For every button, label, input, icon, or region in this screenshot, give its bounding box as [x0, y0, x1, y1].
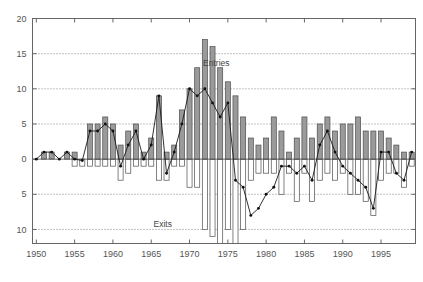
- exits-bar: [348, 159, 353, 194]
- entries-bar: [256, 145, 261, 159]
- exits-bar: [333, 159, 338, 180]
- x-tick-label: 1995: [371, 249, 391, 259]
- entries-bar: [248, 138, 253, 159]
- x-tick-label: 1950: [26, 249, 46, 259]
- exits-bar: [317, 159, 322, 180]
- y-tick-label: 15: [16, 49, 26, 59]
- net-data-point: [150, 144, 153, 147]
- y-tick-label: 10: [16, 84, 26, 94]
- net-data-point: [249, 214, 252, 217]
- net-data-point: [257, 207, 260, 210]
- chart-plot-area: 20151050510 1950195519601965197019751980…: [0, 0, 423, 282]
- entries-bar: [401, 152, 406, 159]
- exits-bar: [133, 159, 138, 166]
- exits-bar: [103, 159, 108, 166]
- x-tick-label: 1965: [141, 249, 161, 259]
- entries-bar: [195, 68, 200, 159]
- series-label-exits: Exits: [154, 219, 172, 229]
- net-data-point: [349, 172, 352, 175]
- exits-bar: [386, 159, 391, 173]
- entries-bar: [302, 117, 307, 159]
- exits-bar: [356, 159, 361, 194]
- exits-bar: [248, 159, 253, 180]
- net-data-point: [73, 158, 76, 161]
- entries-bar: [271, 117, 276, 159]
- entries-bar: [325, 117, 330, 159]
- exits-bar: [271, 159, 276, 173]
- x-tick-label: 1980: [256, 249, 276, 259]
- x-tick-label: 1955: [65, 249, 85, 259]
- y-tick-label: 0: [21, 154, 26, 164]
- entries-bar: [187, 89, 192, 159]
- net-data-point: [272, 186, 275, 189]
- y-tick-label: 5: [21, 189, 26, 199]
- exits-bar: [172, 159, 177, 166]
- net-data-point: [295, 172, 298, 175]
- net-data-point: [372, 207, 375, 210]
- exits-bar: [126, 159, 131, 173]
- net-data-point: [203, 87, 206, 90]
- net-data-point: [157, 94, 160, 97]
- exits-bar: [394, 159, 399, 173]
- entries-bar: [287, 152, 292, 159]
- net-data-point: [387, 151, 390, 154]
- exits-bar: [218, 159, 223, 243]
- net-data-point: [303, 165, 306, 168]
- net-data-point: [318, 144, 321, 147]
- net-data-point: [234, 179, 237, 182]
- net-data-point: [165, 172, 168, 175]
- net-data-point: [326, 130, 329, 133]
- net-data-point: [242, 186, 245, 189]
- x-tick-label: 1960: [103, 249, 123, 259]
- entries-bar: [356, 117, 361, 159]
- exits-bar: [363, 159, 368, 201]
- net-data-point: [196, 94, 199, 97]
- exits-bar: [233, 159, 238, 243]
- net-data-point: [43, 151, 46, 154]
- exits-bar: [195, 159, 200, 187]
- net-data-point: [58, 158, 61, 161]
- x-tick-label: 1970: [180, 249, 200, 259]
- net-data-point: [380, 151, 383, 154]
- entries-bar: [233, 96, 238, 159]
- entries-bar: [241, 117, 246, 159]
- net-data-point: [50, 151, 53, 154]
- x-tick-label: 1975: [218, 249, 238, 259]
- y-tick-label: 20: [16, 14, 26, 24]
- entries-bar: [294, 138, 299, 159]
- exits-bar-series: [72, 159, 414, 243]
- exits-bar: [202, 159, 207, 229]
- net-data-point: [410, 151, 413, 154]
- net-data-point: [188, 87, 191, 90]
- entries-bar: [363, 131, 368, 159]
- exits-bar: [87, 159, 92, 166]
- entries-bar: [371, 131, 376, 159]
- entries-bar: [394, 145, 399, 159]
- exits-bar: [179, 159, 184, 166]
- net-data-point: [395, 172, 398, 175]
- net-data-point: [180, 123, 183, 126]
- exits-bar: [156, 159, 161, 180]
- net-data-point: [288, 165, 291, 168]
- net-data-point: [142, 158, 145, 161]
- exits-bar: [279, 159, 284, 194]
- y-tick-label: 5: [21, 119, 26, 129]
- net-data-point: [104, 123, 107, 126]
- x-tick-label: 1990: [333, 249, 353, 259]
- x-tick-label: 1985: [294, 249, 314, 259]
- entries-bar: [348, 124, 353, 159]
- net-data-point: [334, 151, 337, 154]
- net-data-point: [173, 151, 176, 154]
- net-data-point: [219, 115, 222, 118]
- net-data-point: [357, 179, 360, 182]
- series-label-entries: Entries: [203, 58, 229, 68]
- exits-bar: [256, 159, 261, 173]
- net-data-point: [364, 186, 367, 189]
- entries-bar: [264, 138, 269, 159]
- net-data-point: [119, 165, 122, 168]
- exits-bar: [325, 159, 330, 173]
- net-data-point: [81, 159, 84, 162]
- x-axis-tick-labels: 1950195519601965197019751980198519901995: [26, 249, 391, 259]
- net-data-point: [111, 130, 114, 133]
- chart-figure: 20151050510 1950195519601965197019751980…: [0, 0, 423, 282]
